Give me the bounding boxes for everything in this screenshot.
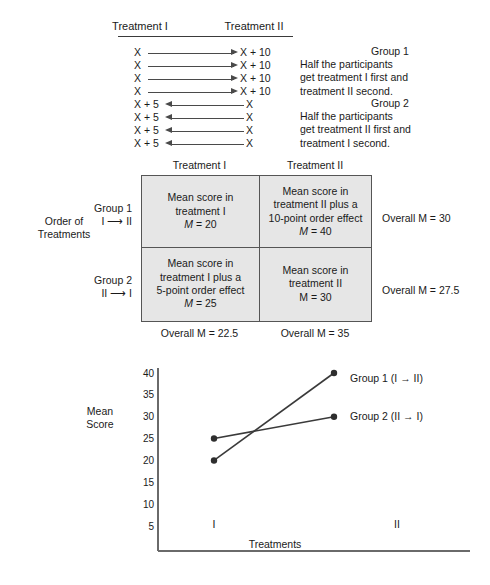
arrow-row: X + 5 X [134, 111, 296, 125]
arrow-row-right: X + 10 [240, 72, 271, 84]
data-point [211, 457, 217, 463]
y-tick-label: 30 [128, 411, 154, 422]
arrow-row-right: X + 10 [240, 59, 271, 71]
matrix-row-label-group-1: Group 1 I ⟶ II [62, 202, 132, 228]
y-tick-label: 25 [128, 433, 154, 444]
arrow-row: X + 5 X [134, 137, 296, 151]
matrix-cell-g2-t1-line-1: Mean score in [168, 257, 234, 270]
y-axis-title: Mean Score [72, 405, 128, 431]
matrix-cell-g2-t1-stat-symbol: M [184, 297, 193, 309]
matrix-cell-g1-t1-stat-symbol: M [184, 218, 193, 230]
series-line-group-1 [214, 373, 334, 460]
arrow-head-left-icon [165, 101, 172, 107]
matrix-cell-g1-t2: Mean score in treatment II plus a 10-poi… [259, 176, 372, 247]
matrix-column-header-treatment-2: Treatment II [258, 159, 372, 171]
matrix-cell-g2-t2-line-2: treatment II [289, 277, 342, 290]
header-underline [118, 36, 293, 37]
arrow-shaft [148, 53, 234, 54]
y-tick-label: 5 [128, 521, 154, 532]
arrow-diagram-header-treatment-2: Treatment II [212, 20, 296, 32]
arrow-shaft [172, 144, 244, 145]
matrix-cell-g1-t2-stat-symbol: M [299, 225, 308, 237]
data-point [211, 435, 217, 441]
arrow-row: X X + 10 [134, 85, 296, 99]
group-2-note-line-1: Half the participants [300, 110, 480, 123]
data-point [331, 370, 337, 376]
matrix-cell-g1-t2-line-2: treatment II plus a [273, 198, 357, 211]
arrow-shaft [172, 118, 244, 119]
group-1-note: Group 1 Half the participants get treatm… [300, 45, 480, 98]
y-axis-title-line-2: Score [72, 418, 128, 431]
arrow-row-right: X [246, 124, 253, 136]
order-effects-matrix: Treatment I Treatment II Order of Treatm… [0, 155, 490, 355]
arrow-shaft [148, 92, 234, 93]
arrow-head-left-icon [165, 114, 172, 120]
matrix-grid: Mean score in treatment I M = 20 Mean sc… [141, 175, 372, 322]
matrix-cell-g2-t2-stat: M = 30 [299, 291, 331, 304]
matrix-cell-g2-t2-line-1: Mean score in [283, 264, 349, 277]
arrow-head-right-icon [231, 75, 238, 81]
arrow-head-right-icon [231, 88, 238, 94]
arrow-row: X X + 10 [134, 59, 296, 73]
matrix-cell-g2-t1: Mean score in treatment I plus a 5-point… [142, 247, 259, 321]
y-tick-label: 40 [128, 368, 154, 379]
series-line-group-2 [214, 417, 334, 439]
matrix-cell-g2-t1-line-2: treatment I plus a [160, 271, 241, 284]
matrix-row-label-group-2: Group 2 II ⟶ I [62, 274, 132, 300]
matrix-row-label-group-2-line-2: II ⟶ I [62, 287, 132, 300]
arrow-row-right: X + 10 [240, 46, 271, 58]
matrix-column-header-treatment-1: Treatment I [141, 159, 258, 171]
matrix-cell-g1-t1-line-2: treatment I [175, 205, 225, 218]
arrow-row-left: X [134, 46, 141, 58]
interaction-line-chart: 40 35 30 25 20 15 10 5 Mean Score I II T… [0, 360, 490, 585]
matrix-cell-g1-t1-stat-value: = 20 [193, 218, 217, 230]
group-1-note-line-3: treatment II second. [300, 85, 480, 98]
arrow-row: X X + 10 [134, 72, 296, 86]
matrix-cell-g1-t2-stat-value: = 40 [308, 225, 332, 237]
arrow-row-right: X [246, 137, 253, 149]
arrow-row: X X + 10 [134, 46, 296, 60]
matrix-cell-g2-t1-stat: M = 25 [184, 297, 216, 310]
matrix-row-label-group-1-line-1: Group 1 [62, 202, 132, 215]
arrow-head-right-icon [231, 49, 238, 55]
arrow-row-left: X [134, 72, 141, 84]
arrow-shaft [148, 79, 234, 80]
arrow-row: X + 5 X [134, 98, 296, 112]
matrix-row-label-group-2-line-1: Group 2 [62, 274, 132, 287]
matrix-cell-g2-t1-stat-value: = 25 [193, 297, 217, 309]
arrow-row-right: X [246, 98, 253, 110]
arrow-diagram-header-treatment-1: Treatment I [100, 20, 180, 32]
group-1-note-title: Group 1 [300, 45, 480, 58]
x-tick-label: II [377, 518, 417, 530]
y-tick-label: 20 [128, 455, 154, 466]
group-1-note-line-1: Half the participants [300, 58, 480, 71]
matrix-cell-g1-t2-stat: M = 40 [299, 225, 331, 238]
group-2-note-title: Group 2 [300, 97, 480, 110]
matrix-cell-g1-t1-line-1: Mean score in [168, 191, 234, 204]
arrow-row-left: X + 5 [134, 137, 159, 149]
y-tick-label: 35 [128, 389, 154, 400]
group-1-note-line-2: get treatment I first and [300, 71, 480, 84]
matrix-row-overall-group-2: Overall M = 27.5 [382, 284, 459, 296]
matrix-cell-g1-t1-stat: M = 20 [184, 218, 216, 231]
matrix-column-overall-treatment-2: Overall M = 35 [258, 327, 372, 339]
matrix-axis-label-line-2: Treatments [0, 228, 128, 241]
plot-area [0, 360, 490, 585]
matrix-cell-g2-t2: Mean score in treatment II M = 30 [259, 247, 372, 321]
group-2-note: Group 2 Half the participants get treatm… [300, 97, 480, 150]
group-2-note-line-3: treatment I second. [300, 137, 480, 150]
arrow-head-left-icon [165, 140, 172, 146]
arrow-diagram: Treatment I Treatment II X X + 10 X X + … [0, 0, 490, 160]
x-axis-title: Treatments [175, 538, 375, 550]
arrow-head-left-icon [165, 127, 172, 133]
y-tick-label: 10 [128, 499, 154, 510]
y-tick-label: 15 [128, 477, 154, 488]
matrix-cell-g1-t2-line-3: 10-point order effect [269, 212, 363, 225]
matrix-cell-g2-t2-stat-value: = 30 [308, 291, 332, 303]
arrow-row-left: X + 5 [134, 111, 159, 123]
matrix-column-overall-treatment-1: Overall M = 22.5 [141, 327, 258, 339]
arrow-row-left: X [134, 59, 141, 71]
data-point [331, 414, 337, 420]
matrix-cell-g2-t2-stat-symbol: M [299, 291, 308, 303]
series-label-group-2: Group 2 (II → I) [350, 410, 423, 422]
